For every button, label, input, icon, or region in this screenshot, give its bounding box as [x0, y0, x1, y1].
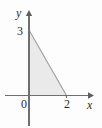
y-tick-label-3: 3: [17, 24, 23, 38]
x-axis-label: x: [86, 98, 93, 112]
coordinate-plane-svg: y x 3 0 2: [0, 0, 102, 128]
x-tick-label-2: 2: [64, 97, 70, 111]
y-axis-arrow-icon: [26, 10, 32, 16]
graph-figure: y x 3 0 2: [0, 0, 102, 128]
shaded-triangle-region: [29, 30, 67, 95]
origin-label-0: 0: [21, 97, 27, 111]
y-axis-label: y: [15, 6, 22, 20]
